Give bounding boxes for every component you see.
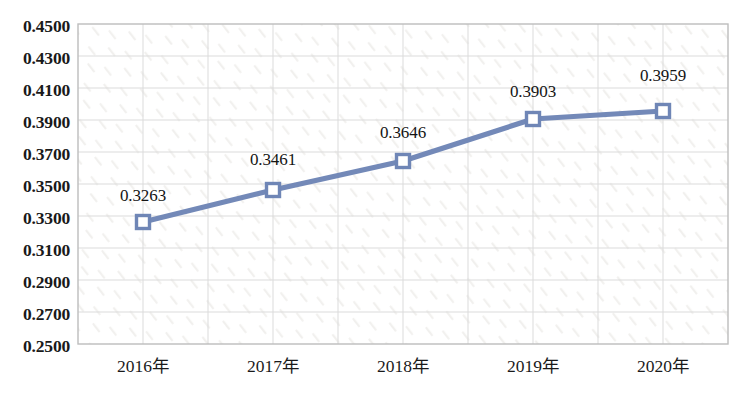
data-point-marker (397, 155, 410, 168)
x-axis-tick-label: 2020年 (608, 352, 718, 377)
x-axis-tick-label: 2017年 (218, 352, 328, 377)
x-axis-tick-label: 2019年 (478, 352, 588, 377)
y-axis-tick-label: 0.3900 (0, 112, 70, 133)
data-point-label: 0.3959 (613, 66, 713, 86)
data-point-label: 0.3646 (353, 123, 453, 143)
data-point-marker (657, 105, 670, 118)
line-chart: 0.4500 0.4300 0.4100 0.3900 0.3700 0.350… (0, 0, 734, 397)
y-axis-tick-label: 0.3500 (0, 176, 70, 197)
y-axis-tick-label: 0.4100 (0, 80, 70, 101)
x-axis-tick-label: 2016年 (88, 352, 198, 377)
y-axis-tick-label: 0.4500 (0, 16, 70, 37)
y-axis-tick-label: 0.2900 (0, 272, 70, 293)
x-axis-tick-label: 2018年 (348, 352, 458, 377)
y-axis-tick-label: 0.3100 (0, 240, 70, 261)
y-axis-tick-label: 0.2700 (0, 304, 70, 325)
data-point-marker (137, 216, 150, 229)
data-point-label: 0.3903 (483, 82, 583, 102)
y-axis-tick-label: 0.4300 (0, 48, 70, 69)
y-axis-tick-label: 0.3700 (0, 144, 70, 165)
data-point-label: 0.3263 (93, 186, 193, 206)
data-point-marker (527, 113, 540, 126)
data-point-marker (267, 184, 280, 197)
y-axis-tick-label: 0.2500 (0, 336, 70, 357)
data-point-label: 0.3461 (223, 150, 323, 170)
y-axis-tick-label: 0.3300 (0, 208, 70, 229)
